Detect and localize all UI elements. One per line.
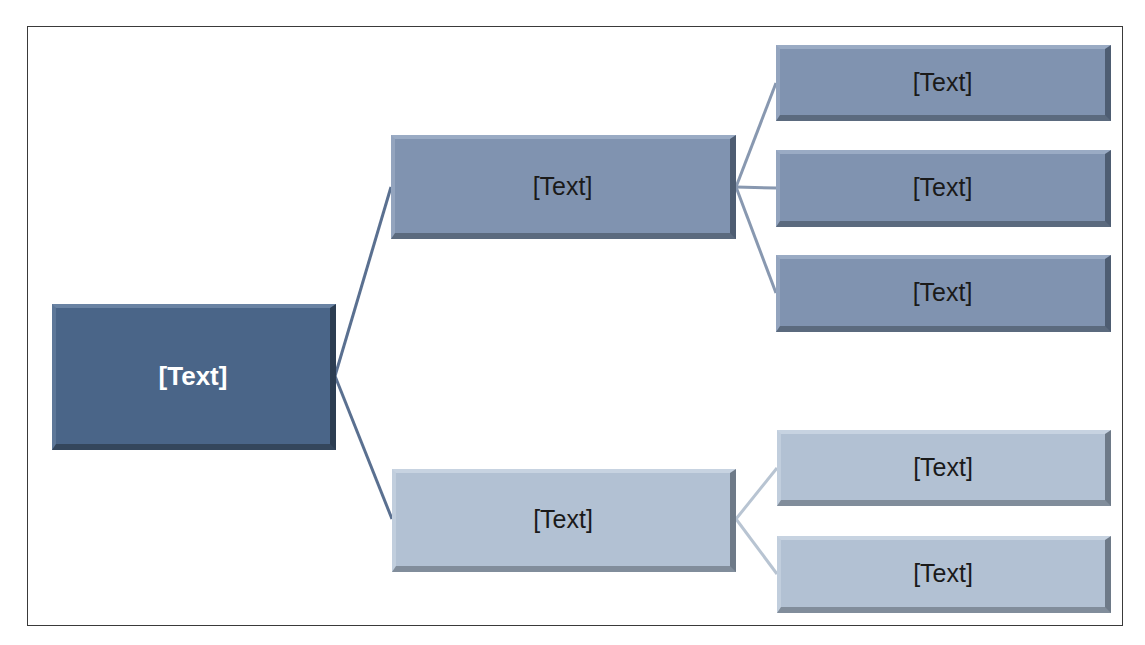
leaf-node-upper-2-label: [Text] [913,173,973,202]
root-node-label: [Text] [159,361,228,392]
branch-node-upper[interactable]: [Text] [391,135,736,239]
leaf-node-upper-3[interactable]: [Text] [776,255,1111,332]
leaf-node-upper-3-label: [Text] [913,278,973,307]
leaf-node-lower-1[interactable]: [Text] [777,430,1111,506]
leaf-node-upper-1-label: [Text] [913,68,973,97]
leaf-node-lower-1-label: [Text] [913,453,973,482]
leaf-node-lower-2[interactable]: [Text] [777,536,1111,613]
branch-node-lower-label: [Text] [533,505,593,534]
leaf-node-upper-1[interactable]: [Text] [776,45,1111,121]
branch-node-upper-label: [Text] [533,172,593,201]
leaf-node-lower-2-label: [Text] [913,559,973,588]
branch-node-lower[interactable]: [Text] [392,469,736,572]
root-node[interactable]: [Text] [52,304,336,450]
leaf-node-upper-2[interactable]: [Text] [776,150,1111,227]
